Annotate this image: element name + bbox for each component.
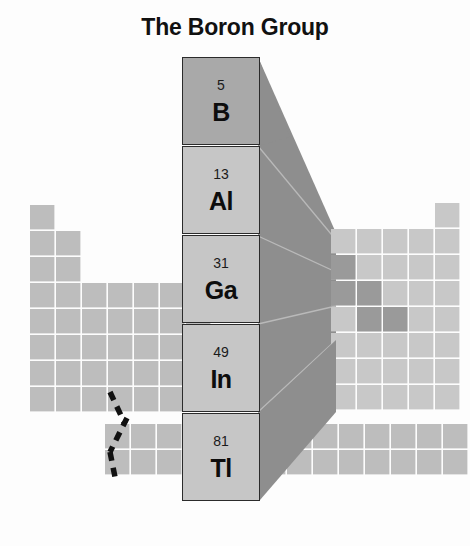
element-card-aluminium[interactable]: 13 Al	[182, 146, 260, 234]
element-card-gallium[interactable]: 31 Ga	[182, 235, 260, 323]
boron-group-column: 5 B 13 Al 31 Ga 49 In 81 Tl	[182, 57, 260, 502]
element-symbol: Al	[183, 187, 259, 216]
element-atomic-number: 31	[183, 255, 259, 271]
periodic-table-right-block	[331, 203, 459, 409]
element-atomic-number: 81	[183, 433, 259, 449]
element-card-boron[interactable]: 5 B	[182, 57, 260, 145]
element-symbol: In	[183, 365, 259, 394]
element-symbol: B	[183, 98, 259, 127]
element-symbol: Ga	[183, 276, 259, 305]
element-symbol: Tl	[183, 454, 259, 483]
element-atomic-number: 13	[183, 166, 259, 182]
boron-group-figure: The Boron Group	[0, 0, 470, 546]
element-card-indium[interactable]: 49 In	[182, 324, 260, 412]
element-atomic-number: 5	[183, 77, 259, 93]
element-atomic-number: 49	[183, 344, 259, 360]
element-card-thallium[interactable]: 81 Tl	[182, 413, 260, 501]
